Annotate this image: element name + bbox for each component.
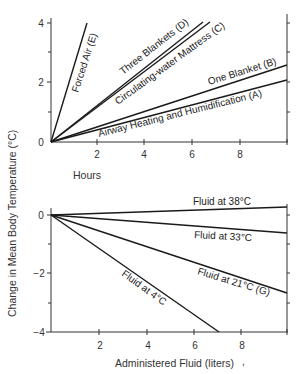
top-y-tick-label: 2 bbox=[38, 77, 44, 88]
bottom-y-tick-label: 0 bbox=[38, 210, 44, 221]
label-fluid-21c: Fluid at 21°C (G) bbox=[196, 265, 271, 297]
bottom-x-axis-title: Administered Fluid (liters) bbox=[115, 357, 234, 369]
bottom-x-tick-label: 2 bbox=[97, 340, 103, 351]
bottom-panel: 0 −2 −4 2 4 6 8 Administered Fluid (lite… bbox=[33, 196, 290, 369]
top-x-tick-label: 6 bbox=[189, 149, 195, 160]
stray-mark: , bbox=[242, 356, 245, 367]
top-panel: 4 2 0 2 4 6 8 Hours Forced Air (E) Three… bbox=[38, 14, 290, 181]
series-fluid-33c bbox=[51, 215, 287, 233]
series-fluid-38c bbox=[51, 207, 287, 215]
top-x-tick-label: 4 bbox=[141, 149, 147, 160]
y-axis-title: Change in Mean Body Temperature (°C) bbox=[6, 130, 18, 317]
bottom-x-tick-label: 6 bbox=[192, 340, 198, 351]
top-x-tick-label: 8 bbox=[237, 149, 243, 160]
bottom-x-tick-label: 8 bbox=[239, 340, 245, 351]
bottom-x-tick-label: 4 bbox=[145, 340, 151, 351]
series-one-blanket bbox=[51, 65, 287, 142]
bottom-y-tick-label: −4 bbox=[33, 327, 45, 338]
label-fluid-38c: Fluid at 38°C bbox=[193, 196, 251, 207]
chart-canvas: 4 2 0 2 4 6 8 Hours Forced Air (E) Three… bbox=[0, 0, 297, 374]
top-y-tick-label: 4 bbox=[38, 18, 44, 29]
bottom-y-tick-label: −2 bbox=[33, 268, 45, 279]
top-x-axis-title: Hours bbox=[73, 169, 101, 181]
label-forced-air: Forced Air (E) bbox=[69, 32, 99, 94]
top-x-tick-label: 2 bbox=[94, 149, 100, 160]
label-fluid-4c: Fluid at 4°C bbox=[120, 268, 169, 308]
top-y-tick-label: 0 bbox=[38, 137, 44, 148]
label-fluid-33c: Fluid at 33°C bbox=[194, 229, 252, 243]
